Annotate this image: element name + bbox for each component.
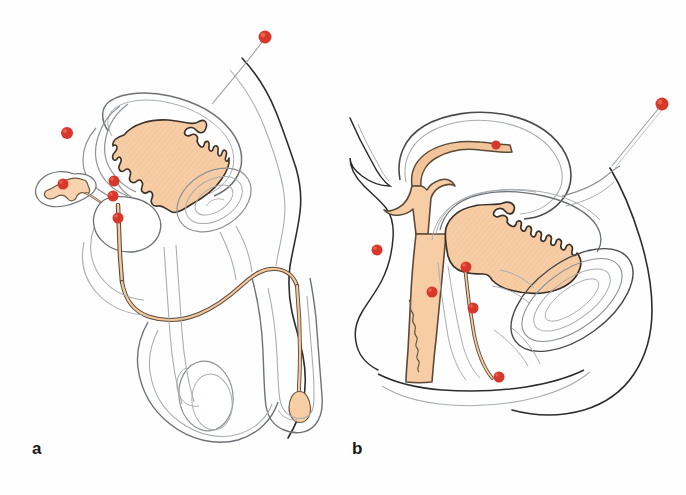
marker-b-7-highlight [495, 373, 499, 377]
marker-a-4[interactable] [109, 176, 120, 187]
marker-a-2-highlight [63, 129, 67, 133]
anatomy-illustration-svg [0, 0, 686, 495]
panel-a-label: a [32, 440, 41, 457]
marker-a-1-highlight [261, 33, 266, 38]
marker-b-2[interactable] [491, 140, 500, 149]
marker-b-5[interactable] [427, 287, 438, 298]
glans-penis-lumen [289, 392, 311, 423]
marker-a-3[interactable] [58, 179, 69, 190]
marker-b-4-highlight [462, 263, 466, 267]
marker-b-3[interactable] [372, 245, 383, 256]
marker-a-3-highlight [59, 180, 63, 184]
marker-b-5-highlight [428, 288, 432, 292]
figure-background [0, 0, 686, 495]
marker-a-6[interactable] [113, 213, 124, 224]
marker-b-6[interactable] [468, 303, 479, 314]
marker-b-1[interactable] [656, 98, 669, 111]
marker-a-2[interactable] [61, 127, 73, 139]
marker-a-4-highlight [110, 177, 114, 181]
marker-b-4[interactable] [461, 262, 472, 273]
marker-a-5-highlight [109, 192, 113, 196]
marker-a-1[interactable] [259, 31, 272, 44]
marker-b-3-highlight [373, 246, 377, 250]
anatomy-figure: a b [0, 0, 686, 495]
marker-a-5[interactable] [108, 191, 119, 202]
marker-b-6-highlight [469, 304, 473, 308]
panel-b-label: b [352, 440, 362, 457]
marker-b-1-highlight [658, 100, 663, 105]
marker-b-7[interactable] [494, 372, 505, 383]
marker-a-6-highlight [114, 214, 118, 218]
